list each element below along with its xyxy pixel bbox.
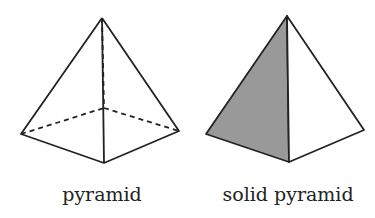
hidden-edge-left-back (21, 108, 104, 134)
pyramid-diagram: pyramid solid pyramid (0, 0, 375, 218)
visible-edge-apex-front (102, 18, 104, 163)
solid-pyramid (206, 16, 364, 162)
wireframe-pyramid (21, 18, 179, 163)
white-right-face (287, 16, 364, 162)
hidden-edge-back-right (104, 108, 179, 131)
solid-pyramid-label: solid pyramid (222, 183, 353, 205)
visible-edges-outline (21, 18, 179, 163)
shaded-left-face (206, 16, 289, 162)
pyramid-label: pyramid (62, 183, 142, 205)
